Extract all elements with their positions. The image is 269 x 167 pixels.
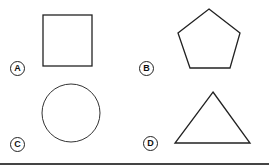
square-shape — [43, 15, 92, 66]
circle-shape — [42, 84, 100, 142]
option-label-a[interactable]: A — [10, 61, 25, 76]
option-label-d[interactable]: D — [143, 136, 158, 151]
option-label-c[interactable]: C — [10, 137, 25, 152]
pentagon-shape — [178, 9, 240, 68]
triangle-shape — [175, 92, 250, 143]
option-label-b[interactable]: B — [139, 61, 154, 76]
bottom-divider — [0, 163, 269, 165]
shape-options-figure: A B C D — [0, 0, 269, 167]
